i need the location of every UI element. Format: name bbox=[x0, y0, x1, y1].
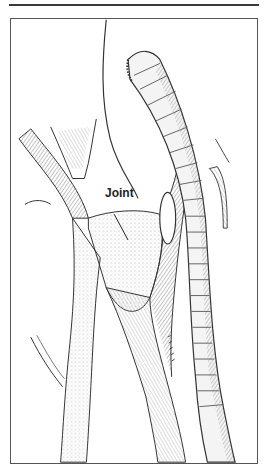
figure-frame: Joint bbox=[10, 18, 258, 464]
illustration bbox=[11, 19, 257, 463]
right-branch bbox=[106, 159, 189, 463]
tree-branch bbox=[19, 119, 100, 462]
top-rule bbox=[9, 4, 259, 6]
right-twigs bbox=[209, 139, 229, 228]
vine-stem bbox=[103, 20, 138, 199]
joint-label: Joint bbox=[105, 186, 134, 200]
